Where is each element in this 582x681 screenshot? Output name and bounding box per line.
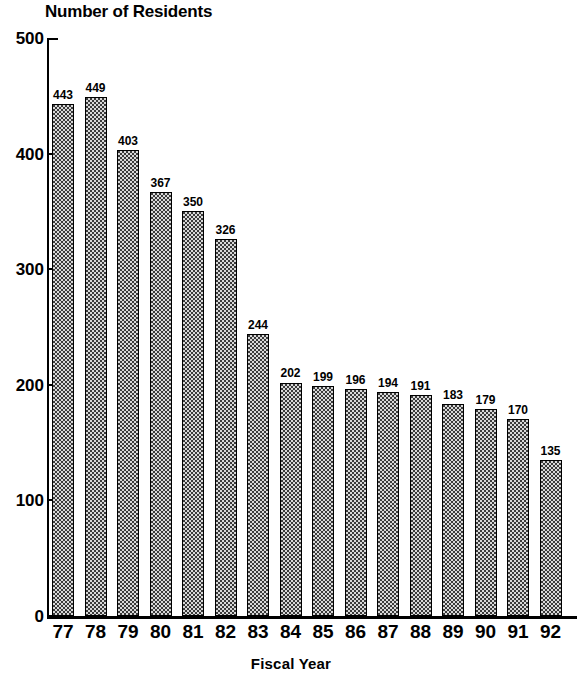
bar — [540, 460, 562, 616]
bar-value-label: 367 — [144, 177, 178, 189]
bar — [150, 192, 172, 616]
y-axis-tick-label: 0 — [0, 608, 44, 625]
bar — [475, 409, 497, 616]
bar-chart: Number of Residents 0100200300400500 443… — [0, 0, 582, 681]
y-axis-tick-top — [49, 38, 58, 40]
x-axis-tick-label: 77 — [47, 622, 79, 641]
x-axis-line — [47, 616, 577, 619]
bar-value-label: 350 — [176, 196, 210, 208]
bar — [442, 404, 464, 616]
x-axis-tick-label: 79 — [112, 622, 144, 641]
bar — [85, 97, 107, 616]
x-axis-tick-label: 92 — [535, 622, 567, 641]
bar — [345, 389, 367, 616]
bar-value-label: 199 — [306, 371, 340, 383]
plot-area: 4434494033673503262442021991961941911831… — [47, 38, 582, 618]
bar-value-label: 244 — [241, 319, 275, 331]
bar — [507, 419, 529, 616]
x-axis-tick-label: 90 — [470, 622, 502, 641]
bar-value-label: 135 — [534, 445, 568, 457]
x-axis-tick-label: 83 — [242, 622, 274, 641]
bar — [377, 392, 399, 616]
x-axis-title: Fiscal Year — [0, 655, 582, 672]
bar-value-label: 326 — [209, 224, 243, 236]
y-axis-labels: 0100200300400500 — [0, 38, 44, 618]
bar-value-label: 179 — [469, 394, 503, 406]
bar-value-label: 183 — [436, 389, 470, 401]
bar-value-label: 191 — [404, 380, 438, 392]
bar-value-label: 202 — [274, 367, 308, 379]
x-axis-tick-label: 85 — [307, 622, 339, 641]
x-axis-tick-label: 89 — [437, 622, 469, 641]
y-axis-tick-label: 200 — [0, 376, 44, 393]
bar — [312, 386, 334, 616]
y-axis-tick-label: 400 — [0, 145, 44, 162]
y-axis-tick-label: 100 — [0, 492, 44, 509]
bar-value-label: 196 — [339, 374, 373, 386]
x-axis-tick-label: 84 — [275, 622, 307, 641]
chart-title: Number of Residents — [45, 2, 212, 22]
y-axis-line — [47, 38, 49, 618]
bar — [52, 104, 74, 616]
bar — [280, 383, 302, 617]
bar-value-label: 449 — [79, 82, 113, 94]
bar-value-label: 403 — [111, 135, 145, 147]
x-axis-tick-label: 87 — [372, 622, 404, 641]
x-axis-tick-label: 80 — [145, 622, 177, 641]
bar-value-label: 443 — [46, 89, 80, 101]
bar — [247, 334, 269, 616]
x-axis-tick-label: 86 — [340, 622, 372, 641]
bar-value-label: 170 — [501, 404, 535, 416]
y-axis-tick-label: 300 — [0, 261, 44, 278]
x-axis-tick-label: 78 — [80, 622, 112, 641]
bar — [117, 150, 139, 616]
bar — [410, 395, 432, 616]
x-axis-tick-label: 88 — [405, 622, 437, 641]
bar — [182, 211, 204, 616]
bar-value-label: 194 — [371, 377, 405, 389]
x-axis-tick-label: 81 — [177, 622, 209, 641]
bar — [215, 239, 237, 616]
y-axis-tick-label: 500 — [0, 30, 44, 47]
x-axis-tick-label: 91 — [502, 622, 534, 641]
x-axis-tick-label: 82 — [210, 622, 242, 641]
